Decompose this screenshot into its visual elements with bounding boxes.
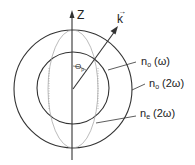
vector-arrow-icon: → xyxy=(118,8,126,16)
theta-label: Θp xyxy=(75,63,84,72)
label-ellipse: ne (2ω) xyxy=(140,108,175,120)
k-vector-label: → k xyxy=(117,13,123,25)
leader-outer-circle xyxy=(132,84,145,90)
z-axis-arrowhead xyxy=(70,10,75,18)
label-arg: (ω) xyxy=(154,55,170,67)
label-outer-circle: no (2ω) xyxy=(149,78,184,90)
label-subscript: o xyxy=(147,61,151,68)
label-arg: (2ω) xyxy=(162,77,184,89)
label-inner-circle: no (ω) xyxy=(141,56,170,68)
z-axis-label-text: Z xyxy=(77,8,84,22)
z-axis-label: Z xyxy=(77,9,84,21)
label-arg: (2ω) xyxy=(153,107,175,119)
k-vector-arrowhead xyxy=(111,26,119,35)
label-subscript: o xyxy=(155,83,159,90)
label-subscript: e xyxy=(146,113,150,120)
theta-subscript: p xyxy=(81,66,84,72)
leader-inner-circle xyxy=(108,62,136,70)
leader-ellipse xyxy=(96,116,136,123)
